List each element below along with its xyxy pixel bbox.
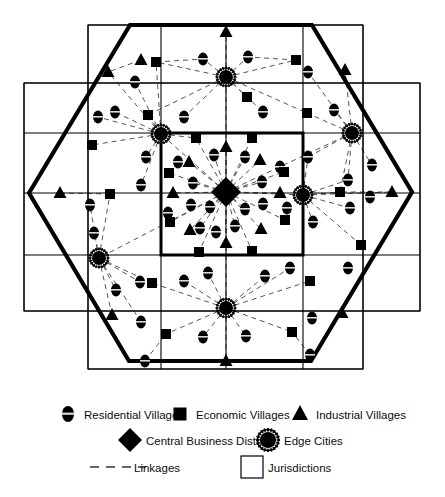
economic-village-icon: [302, 108, 312, 118]
legend-label: Central Business District: [146, 435, 272, 447]
economic-village-icon: [105, 189, 115, 199]
residential-village-icon: [179, 275, 189, 288]
residential-village-icon: [343, 262, 353, 275]
residential-village-icon: [367, 159, 377, 172]
residential-village-icon: [285, 262, 295, 275]
economic-village-icon: [287, 327, 297, 337]
residential-village-icon: [130, 76, 140, 89]
economic-village-icon: [191, 133, 201, 143]
residential-village-icon: [243, 51, 253, 64]
residential-village-icon: [93, 111, 103, 124]
residential-village-icon: [258, 106, 268, 119]
economic-village-icon: [161, 329, 171, 339]
economic-village-icon: [242, 92, 252, 102]
economic-village-icon: [164, 168, 174, 178]
residential-village-icon: [203, 267, 213, 280]
residential-village-icon: [305, 349, 315, 362]
residential-village-icon: [329, 104, 339, 117]
legend-label: Economic Villages: [196, 409, 290, 421]
economic-village-icon: [147, 278, 157, 288]
economic-village-icon: [305, 276, 315, 286]
residential-village-icon: [211, 226, 221, 239]
residential-village-icon: [136, 316, 146, 329]
residential-village-icon: [136, 179, 146, 192]
legend-label: Jurisdictions: [268, 462, 332, 474]
economic-village-icon: [247, 246, 257, 256]
economic-village-icon: [143, 110, 153, 120]
legend-label: Residential Villages: [84, 409, 184, 421]
residential-village-icon: [307, 312, 317, 325]
economic-village-icon: [174, 408, 187, 421]
economic-village-icon: [356, 240, 366, 250]
residential-village-icon: [365, 191, 375, 204]
economic-village-icon: [291, 55, 301, 65]
figure-container: Residential VillagesEconomic VillagesInd…: [0, 0, 445, 497]
residential-village-icon: [195, 222, 205, 235]
residential-village-icon: [135, 276, 145, 289]
economic-village-icon: [335, 187, 345, 197]
residential-village-icon: [343, 174, 353, 187]
legend-label: Linkages: [134, 462, 180, 474]
residential-village-icon: [303, 66, 313, 79]
economic-village-icon: [194, 247, 204, 257]
residential-village-icon: [258, 198, 268, 211]
residential-village-icon: [62, 406, 74, 422]
residential-village-icon: [260, 270, 270, 283]
residential-village-icon: [241, 330, 251, 343]
residential-village-icon: [282, 202, 292, 215]
residential-village-icon: [173, 156, 183, 169]
residential-village-icon: [186, 199, 196, 212]
residential-village-icon: [198, 331, 208, 344]
residential-village-icon: [111, 284, 121, 297]
jurisdiction-square-icon: [241, 456, 263, 478]
economic-village-icon: [279, 167, 289, 177]
economic-village-icon: [87, 140, 97, 150]
residential-village-icon: [240, 151, 250, 164]
legend-label: Edge Cities: [284, 435, 343, 447]
residential-village-icon: [179, 111, 189, 124]
economic-village-icon: [165, 217, 175, 227]
residential-village-icon: [205, 201, 215, 214]
residential-village-icon: [230, 220, 240, 233]
residential-village-icon: [188, 177, 198, 190]
residential-village-icon: [257, 176, 267, 189]
legend-label: Industrial Villages: [316, 409, 406, 421]
residential-village-icon: [240, 203, 250, 216]
residential-village-icon: [85, 199, 95, 212]
residential-village-icon: [140, 355, 150, 368]
economic-village-icon: [280, 215, 290, 225]
residential-village-icon: [303, 151, 313, 164]
economic-village-icon: [151, 57, 161, 67]
residential-village-icon: [89, 227, 99, 240]
residential-village-icon: [141, 151, 151, 164]
economic-village-icon: [247, 133, 257, 143]
residential-village-icon: [198, 53, 208, 66]
residential-village-icon: [209, 149, 219, 162]
residential-village-icon: [345, 202, 355, 215]
metropolitan-structure-diagram: Residential VillagesEconomic VillagesInd…: [0, 0, 445, 497]
residential-village-icon: [110, 106, 120, 119]
residential-village-icon: [308, 216, 318, 229]
